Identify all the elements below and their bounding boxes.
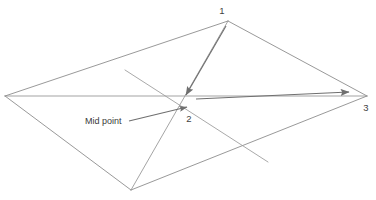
mid-point-label: Mid point [85,116,122,126]
vertex-3-label: 3 [363,102,368,113]
cross-line-through-midpoint [125,70,268,162]
vertex-2-label: 2 [186,113,191,124]
vertex-1-label: 1 [219,5,224,16]
arrow-vertex1-to-midpoint [186,26,226,95]
edge-top-to-right [228,21,367,96]
edge-left-to-top [5,21,228,96]
arrow-midpoint-to-vertex3 [196,92,349,99]
diagram-canvas: 1 2 3 Mid point [0,0,376,200]
arrow-midpoint-leader [129,107,187,121]
edge-right-to-bottom [131,96,367,190]
quadrilateral-outline [5,21,367,190]
midpoint-diagram: 1 2 3 Mid point [0,0,376,200]
edge-bottom-to-left [5,96,131,190]
quadrilateral-diagonals [5,21,367,190]
